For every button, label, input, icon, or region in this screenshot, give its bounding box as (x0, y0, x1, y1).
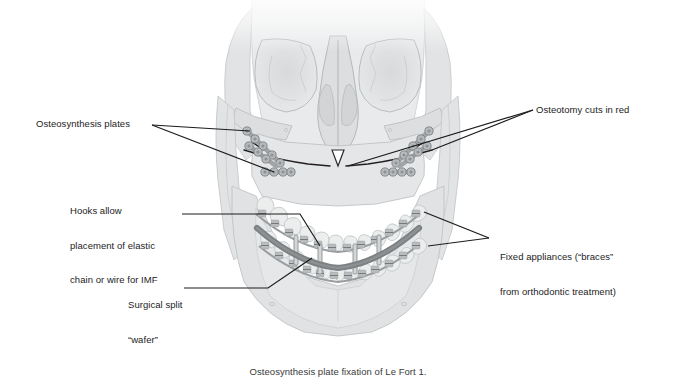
bracket (358, 270, 366, 277)
bracket (399, 220, 407, 227)
bracket (328, 244, 336, 251)
label-surgical-wafer: Surgical split “wafer” (128, 276, 183, 368)
bracket (344, 272, 352, 279)
bracket (271, 220, 279, 227)
label-surgical-wafer-line2: “wafer” (128, 334, 183, 346)
bracket (385, 229, 393, 236)
bracket (412, 242, 420, 249)
bracket (399, 252, 407, 259)
bracket (261, 242, 269, 249)
bracket (275, 252, 283, 259)
imf-hook (353, 244, 357, 274)
figure-caption: Osteosynthesis plate fixation of Le Fort… (0, 366, 676, 377)
figure-canvas: Osteosynthesis plates Hooks allow placem… (0, 0, 676, 388)
bracket (357, 241, 365, 248)
imf-hook (318, 244, 322, 274)
label-fixed-appliances-line2: from orthodontic treatment) (500, 286, 616, 298)
bracket (385, 260, 393, 267)
bracket (303, 266, 311, 273)
label-osteosynthesis-plates: Osteosynthesis plates (36, 118, 130, 130)
label-fixed-appliances-line1: Fixed appliances (“braces” (500, 251, 616, 263)
bracket (300, 236, 308, 243)
label-surgical-wafer-line1: Surgical split (128, 299, 183, 311)
top-fade-overlay (200, 0, 476, 52)
cranium-group (200, 0, 476, 206)
label-fixed-appliances: Fixed appliances (“braces” from orthodon… (500, 228, 616, 320)
bracket (412, 210, 420, 217)
bracket (285, 229, 293, 236)
imf-hook (377, 235, 381, 265)
bracket (330, 272, 338, 279)
label-hooks-imf-line1: Hooks allow (70, 205, 158, 217)
label-hooks-imf-line2: placement of elastic (70, 240, 158, 252)
imf-hook (294, 235, 298, 265)
label-osteotomy-cuts: Osteotomy cuts in red (536, 104, 629, 116)
bracket (371, 266, 379, 273)
bracket (343, 244, 351, 251)
